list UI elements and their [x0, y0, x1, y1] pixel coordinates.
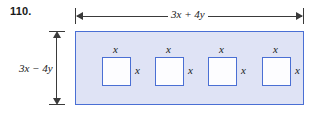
dimension-line-height: [56, 33, 57, 103]
problem-number: 110.: [10, 5, 32, 17]
arrowhead-up-icon: [53, 31, 61, 38]
inner-square: [208, 57, 237, 86]
square-top-label: x: [219, 43, 224, 55]
dimension-label-width: 3x + 4y: [168, 8, 208, 20]
square-right-label: x: [241, 64, 246, 76]
arrowhead-left-icon: [76, 12, 83, 20]
square-top-label: x: [113, 43, 118, 55]
arrowhead-down-icon: [53, 98, 61, 105]
square-top-label: x: [166, 43, 171, 55]
inner-square: [262, 57, 291, 86]
square-top-label: x: [273, 43, 278, 55]
dimension-label-height: 3x − 4y: [17, 61, 55, 75]
arrowhead-right-icon: [296, 12, 303, 20]
square-right-label: x: [135, 64, 140, 76]
square-right-label: x: [295, 64, 300, 76]
inner-square: [102, 57, 131, 86]
inner-square: [155, 57, 184, 86]
geometry-figure: 110. 3x + 4y 3x − 4y x x x x x x x x: [0, 0, 312, 115]
square-right-label: x: [188, 64, 193, 76]
extension-line-top-right: [303, 8, 304, 24]
